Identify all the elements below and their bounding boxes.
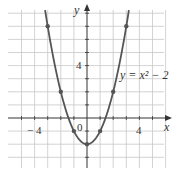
data-point xyxy=(85,142,89,146)
x-tick-label-4: 4 xyxy=(136,124,142,136)
data-point xyxy=(72,129,76,133)
y-axis-label: y xyxy=(73,3,80,17)
data-point xyxy=(46,24,50,28)
y-tick-label-4: 4 xyxy=(76,59,82,71)
data-point xyxy=(124,24,128,28)
data-point xyxy=(98,129,102,133)
data-point xyxy=(111,90,115,94)
data-point xyxy=(59,90,63,94)
parabola-graph: y x 0 − 4 4 4 y = x² − 2 xyxy=(0,0,181,178)
equation-label: y = x² − 2 xyxy=(119,68,168,82)
y-axis-arrow-icon xyxy=(84,4,90,11)
x-tick-label-neg4: − 4 xyxy=(27,124,42,136)
axis-labels: y x 0 − 4 4 4 y = x² − 2 xyxy=(27,3,170,136)
x-axis-label: x xyxy=(163,120,170,134)
origin-label: 0 xyxy=(77,121,83,133)
